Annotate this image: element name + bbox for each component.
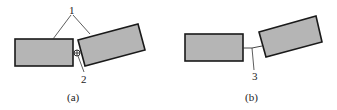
leader-line-1a <box>53 15 71 39</box>
tilted-body-b <box>259 16 322 57</box>
panel-b: 3 (b) <box>185 16 322 104</box>
flexible-link <box>243 46 262 48</box>
leader-line-3 <box>252 48 254 70</box>
caption-b: (b) <box>245 91 258 104</box>
label-2: 2 <box>81 73 87 85</box>
tilted-body-a <box>78 24 145 66</box>
figure-canvas: 1 2 (a) 3 (b) <box>0 0 337 110</box>
left-body-b <box>185 34 243 61</box>
leader-line-1b <box>73 15 90 34</box>
left-body-a <box>15 39 73 66</box>
caption-a: (a) <box>67 91 80 104</box>
hinge-icon <box>74 50 80 56</box>
panel-a: 1 2 (a) <box>15 4 145 104</box>
label-1: 1 <box>69 4 75 16</box>
label-3: 3 <box>252 70 258 82</box>
